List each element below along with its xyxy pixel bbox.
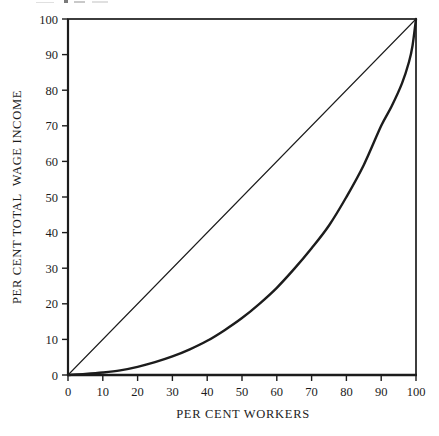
y-tick-label: 0	[52, 369, 58, 383]
y-tick-label: 60	[46, 155, 59, 169]
line-of-equality	[68, 19, 416, 375]
y-tick-label: 100	[39, 13, 58, 27]
x-axis-title: PER CENT WORKERS	[176, 407, 310, 422]
x-tick-label: 80	[340, 385, 353, 399]
y-tick-label: 40	[46, 226, 59, 240]
x-tick-label: 30	[166, 385, 179, 399]
lorenz-chart-svg: 0102030405060708090100010203040506070809…	[0, 0, 439, 436]
y-tick-label: 30	[46, 262, 59, 276]
y-tick-label: 50	[46, 191, 59, 205]
y-tick-label: 70	[46, 119, 59, 133]
y-tick-label: 10	[46, 333, 59, 347]
x-tick-label: 90	[375, 385, 388, 399]
x-tick-label: 10	[97, 385, 110, 399]
y-tick-label: 80	[46, 84, 59, 98]
x-tick-label: 70	[305, 385, 318, 399]
x-tick-label: 20	[131, 385, 144, 399]
y-axis-title: PER CENT TOTAL WAGE INCOME	[10, 90, 25, 304]
x-tick-label: 60	[271, 385, 284, 399]
y-tick-label: 90	[46, 48, 59, 62]
y-tick-label: 20	[46, 297, 59, 311]
x-tick-label: 40	[201, 385, 214, 399]
x-tick-label: 50	[236, 385, 249, 399]
x-tick-label: 0	[65, 385, 71, 399]
x-tick-label: 100	[407, 385, 426, 399]
lorenz-curve-figure: 0102030405060708090100010203040506070809…	[0, 0, 439, 436]
